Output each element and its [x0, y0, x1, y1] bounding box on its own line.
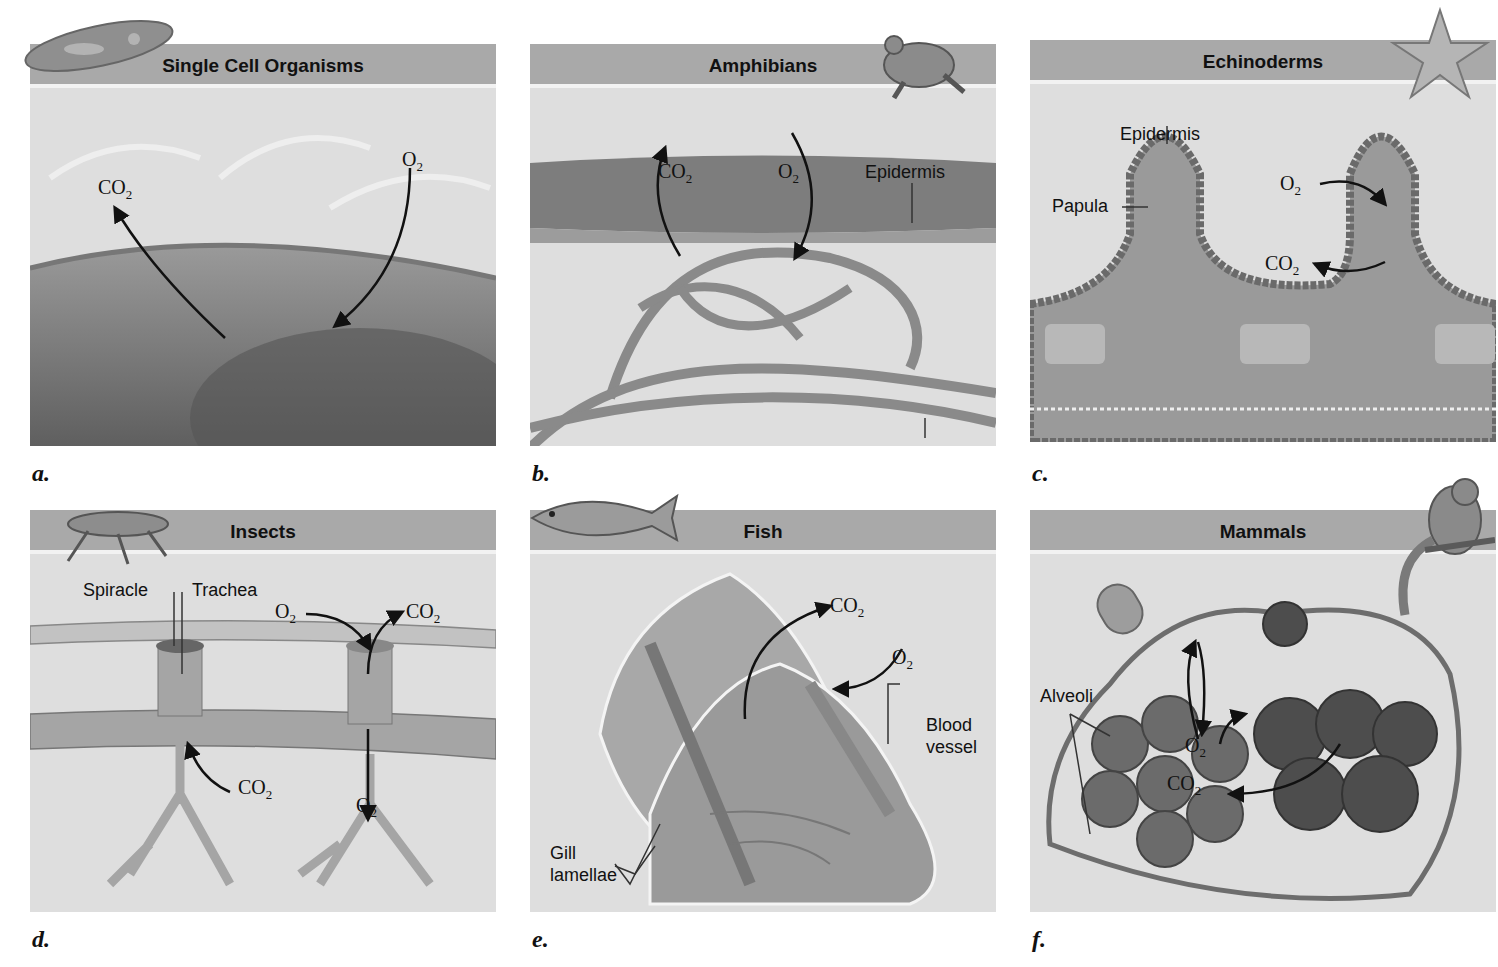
co2-label: CO2 [406, 600, 440, 627]
panel-letter-f: f. [1032, 926, 1046, 953]
panel-illustration: Spiracle Trachea O2 CO2 CO2 O2 [30, 554, 496, 912]
panel-single-cell-organisms: Single Cell Organisms CO2 O2 [30, 44, 496, 446]
co2-label: CO2 [830, 594, 864, 621]
o2-label: O2 [275, 600, 296, 627]
co2-label: CO2 [1265, 252, 1299, 279]
skin-capillary-illustration [530, 88, 996, 446]
alveoli-label: Alveoli [1040, 686, 1093, 707]
panel-illustration: CO2 O2 [30, 88, 496, 446]
o2-label: O2 [892, 646, 913, 673]
o2-label: O2 [402, 148, 423, 175]
o2-label: O2 [356, 794, 377, 821]
panel-illustration: CO2 O2 Blood vessel Gill lamellae [530, 554, 996, 912]
panel-amphibians: Amphibians CO2 O2 Epidermis Blood vessel [530, 44, 996, 446]
panel-echinoderms: Echinoderms Epidermis Papula O2 CO2 [1030, 40, 1496, 442]
panel-letter-a: a. [32, 460, 50, 487]
o2-label: O2 [1280, 172, 1301, 199]
co2-label: CO2 [238, 776, 272, 803]
spiracle-label: Spiracle [83, 580, 148, 601]
co2-label: CO2 [1167, 772, 1201, 799]
panel-illustration: CO2 O2 Epidermis Blood vessel [530, 88, 996, 446]
co2-label: CO2 [98, 176, 132, 203]
panel-fish: Fish CO2 O2 Blood vessel Gill lamellae [530, 510, 996, 912]
papula-label: Papula [1052, 196, 1108, 217]
panel-illustration: Epidermis Papula O2 CO2 [1030, 84, 1496, 442]
chipmunk-icon [1385, 470, 1495, 620]
panel-letter-e: e. [532, 926, 549, 953]
grasshopper-icon [48, 496, 178, 571]
panel-letter-d: d. [32, 926, 50, 953]
epidermis-label: Epidermis [1120, 124, 1200, 145]
fish-icon [522, 488, 682, 548]
panel-letter-b: b. [532, 460, 550, 487]
papula-illustration [1030, 84, 1496, 442]
frog-icon [864, 20, 974, 100]
gill-lamellae-label: Gill lamellae [550, 842, 617, 886]
starfish-icon [1385, 5, 1495, 100]
epidermis-label: Epidermis [865, 162, 945, 183]
paramecium-icon [14, 14, 184, 74]
panel-letter-c: c. [1032, 460, 1049, 487]
cell-membrane-illustration [30, 88, 496, 446]
blood-vessel-label: Blood vessel [926, 714, 977, 758]
trachea-label: Trachea [192, 580, 257, 601]
o2-label: O2 [1185, 734, 1206, 761]
co2-label: CO2 [658, 160, 692, 187]
o2-label: O2 [778, 160, 799, 187]
